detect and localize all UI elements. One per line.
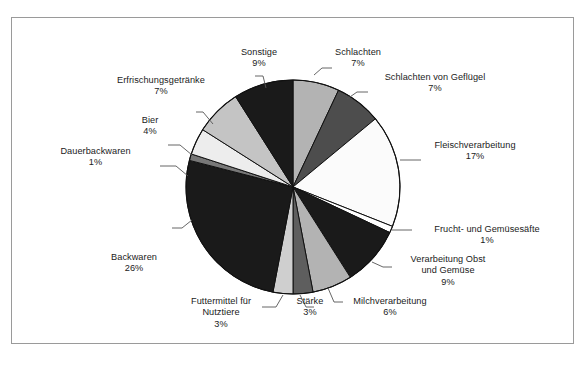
label-bier-value: 4% [132,126,168,137]
label-verarbeitung-obst-und-gemuese-line2: und Gemüse [392,265,504,276]
label-sonstige-name: Sonstige [224,47,294,58]
label-backwaren-value: 26% [96,263,172,274]
label-backwaren: Backwaren 26% [96,252,172,275]
label-fleischverarbeitung-name: Fleischverarbeitung [420,140,530,151]
label-staerke-value: 3% [288,307,332,318]
label-dauerbackwaren: Dauerbackwaren 1% [33,146,158,169]
label-futtermittel-fuer-nutztiere: Futtermittel für Nutztiere 3% [179,296,263,330]
leader-dauerbackwaren [160,166,188,176]
label-bier: Bier 4% [132,115,168,138]
label-schlachten: Schlachten 7% [322,47,394,70]
label-milchverarbeitung-name: Milchverarbeitung [342,296,438,307]
label-sonstige: Sonstige 9% [224,47,294,70]
label-verarbeitung-obst-und-gemuese-line1: Verarbeitung Obst [392,254,504,265]
label-verarbeitung-obst-und-gemuese-value: 9% [392,277,504,288]
label-milchverarbeitung: Milchverarbeitung 6% [342,296,438,319]
label-staerke-name: Stärke [288,296,332,307]
label-erfrischungsgetraenke: Erfrischungsgetränke 7% [101,75,221,98]
leader-obst-gemuese [372,262,392,267]
label-erfrischungsgetraenke-name: Erfrischungsgetränke [101,75,221,86]
label-dauerbackwaren-value: 1% [33,157,158,168]
label-frucht-und-gemuesesaefte-value: 1% [412,235,562,246]
label-futtermittel-value: 3% [179,319,263,330]
label-bier-name: Bier [132,115,168,126]
leader-backwaren [172,220,192,228]
label-sonstige-value: 9% [224,58,294,69]
label-milchverarbeitung-value: 6% [342,307,438,318]
label-backwaren-name: Backwaren [96,252,172,263]
label-futtermittel-line2: Nutztiere [179,307,263,318]
label-fleischverarbeitung-value: 17% [420,151,530,162]
leader-futtermittel [262,295,283,307]
label-erfrischungsgetraenke-value: 7% [101,86,221,97]
label-schlachten-von-gefluegel-name: Schlachten von Geflügel [365,72,505,83]
label-futtermittel-line1: Futtermittel für [179,296,263,307]
label-fleischverarbeitung: Fleischverarbeitung 17% [420,140,530,163]
label-verarbeitung-obst-und-gemuese: Verarbeitung Obst und Gemüse 9% [392,254,504,288]
label-frucht-und-gemuesesaefte-name: Frucht- und Gemüsesäfte [412,224,562,235]
leader-bier [168,145,192,155]
label-schlachten-name: Schlachten [322,47,394,58]
label-schlachten-von-gefluegel-value: 7% [365,83,505,94]
pie-chart: Sonstige 9% Schlachten 7% Schlachten von… [0,0,587,368]
pie-slices [186,80,400,294]
label-dauerbackwaren-name: Dauerbackwaren [33,146,158,157]
label-frucht-und-gemuesesaefte: Frucht- und Gemüsesäfte 1% [412,224,562,247]
label-staerke: Stärke 3% [288,296,332,319]
label-schlachten-von-gefluegel: Schlachten von Geflügel 7% [365,72,505,95]
label-schlachten-value: 7% [322,58,394,69]
